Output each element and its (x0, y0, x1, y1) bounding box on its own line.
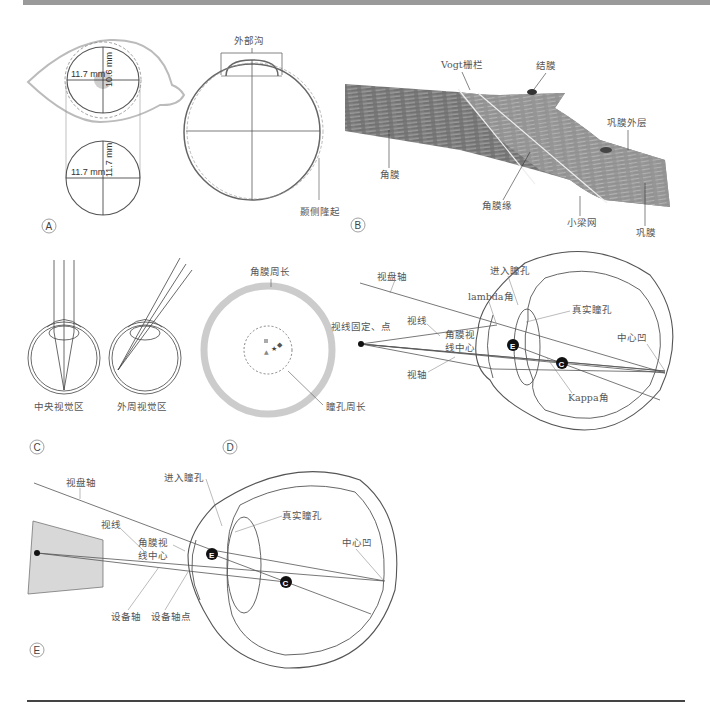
peripheral-zone-label: 外周视觉区 (117, 401, 167, 412)
optic-axis-label: 视盘轴 (66, 477, 96, 488)
lambda-label: lambda角 (468, 291, 514, 302)
visual-axis-label: 视轴 (407, 369, 427, 380)
svg-text:◆: ◆ (277, 341, 283, 349)
entrance-pupil-label: 进入瞳孔 (490, 265, 530, 276)
svg-text:B: B (355, 220, 362, 231)
figure-canvas: 11.7 mm 10.6 mm 11.7 mm 11.7 mm 外部沟 颞侧隆起… (0, 0, 710, 716)
fixation-label: 视线固定、点 (331, 321, 391, 332)
circle-horizontal-label: 11.7 mm (71, 167, 105, 177)
cornea-label: 角膜 (380, 169, 400, 180)
svg-text:E: E (510, 342, 516, 351)
panel-e: E C 视盘轴 进入瞳孔 真实瞳孔 视线 角膜视 线中心 中心凹 设备轴 设备轴… (28, 472, 397, 668)
device-axis-point-label: 设备轴点 (151, 611, 191, 622)
svg-text:A: A (46, 221, 53, 232)
fovea-label: 中心凹 (342, 537, 372, 548)
svg-text:C: C (559, 360, 565, 369)
corneal-center-label-1: 角膜视 (138, 537, 168, 548)
panel-angles: E C 视盘轴 视线固定、点 视线 角膜视 线中心 视轴 进入瞳孔 lambda… (331, 251, 673, 430)
pupil-perimeter-label: 瞳孔周长 (326, 401, 366, 412)
true-pupil-label: 真实瞳孔 (282, 510, 322, 521)
panel-c (28, 258, 192, 394)
conjunctiva-label: 结膜 (536, 60, 556, 71)
true-pupil-label: 真实瞳孔 (572, 304, 612, 315)
fovea-label: 中心凹 (617, 332, 647, 343)
panel-d: ▲ ★ ◆ 角膜周长 瞳孔周长 D (204, 266, 366, 454)
vogt-label: Vogt栅栏 (440, 59, 483, 70)
limbus-label: 角膜缘 (482, 200, 512, 211)
svg-text:C: C (34, 442, 41, 453)
panel-b: Vogt栅栏 结膜 巩膜外层 角膜 角膜缘 小梁网 巩膜 B (345, 59, 670, 238)
sclera-label: 巩膜 (636, 227, 656, 238)
bottom-rule (27, 700, 685, 702)
eye-vertical-label: 10.6 mm (104, 52, 114, 87)
entrance-pupil-label: 进入瞳孔 (164, 472, 204, 483)
device-axis-label: 设备轴 (111, 611, 141, 622)
corneal-center-label-2: 线中心 (445, 342, 475, 353)
fixation-point (358, 341, 364, 347)
line-of-sight-label: 视线 (407, 315, 427, 326)
temporal-bulge-label: 颞侧隆起 (300, 206, 340, 217)
svg-text:C: C (283, 579, 289, 588)
sulcus-label: 外部沟 (234, 35, 264, 46)
circle-vertical-label: 11.7 mm (104, 143, 114, 177)
line-of-sight-label: 视线 (101, 519, 121, 530)
eye-horizontal-label: 11.7 mm (71, 69, 105, 79)
globe-outline (188, 472, 397, 668)
central-zone-label: 中央视觉区 (34, 401, 84, 412)
cornea-perimeter-label: 角膜周长 (250, 266, 290, 277)
svg-text:E: E (209, 551, 215, 560)
corneal-center-label-1: 角膜视 (445, 329, 475, 340)
svg-text:D: D (227, 442, 234, 453)
panel-a: 11.7 mm 10.6 mm 11.7 mm 11.7 mm 外部沟 颞侧隆起… (28, 35, 340, 233)
outer-sclera-label: 巩膜外层 (607, 117, 647, 128)
svg-text:E: E (34, 645, 41, 656)
kappa-label: Kappa角 (568, 392, 609, 403)
peripheral-eye (109, 322, 181, 394)
corneal-center-label-2: 线中心 (138, 550, 168, 561)
optic-axis-label: 视盘轴 (377, 271, 407, 282)
svg-text:▲: ▲ (264, 348, 269, 355)
device-point (34, 550, 40, 556)
trabecular-label: 小梁网 (567, 217, 597, 228)
